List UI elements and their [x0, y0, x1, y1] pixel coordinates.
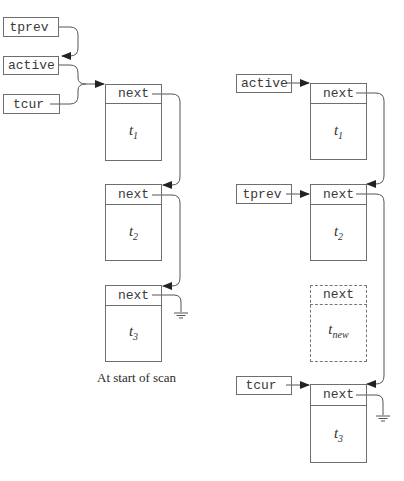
right-node-tnew-label-sub: new — [333, 329, 349, 340]
left-node-t2-label-sub: 2 — [133, 231, 138, 242]
right-node-t3-divider — [310, 405, 367, 406]
left-node-t1-divider — [105, 103, 162, 104]
right-node-t2-label: t2 — [310, 223, 367, 242]
left-node-t1-label-sub: 1 — [133, 130, 138, 141]
left-active-label: active — [8, 58, 55, 73]
left-caption: At start of scan — [97, 370, 176, 386]
right-node-t2-next: next — [310, 185, 367, 204]
right-node-t3-label: t3 — [310, 425, 367, 444]
left-node-t1-next: next — [105, 85, 162, 103]
right-node-t1-divider — [310, 103, 367, 104]
left-tcur-label: tcur — [13, 97, 44, 112]
right-tprev-label: tprev — [242, 187, 281, 202]
right-tcur-pointer: tcur — [236, 376, 292, 395]
right-node-t2-label-sub: 2 — [338, 231, 343, 242]
right-tprev-pointer: tprev — [236, 184, 292, 204]
right-active-pointer: active — [236, 74, 292, 93]
linked-list-diagram: tprev active tcur next t1 next t2 next t… — [0, 0, 404, 481]
right-node-t1-label-sub: 1 — [338, 130, 343, 141]
left-tprev-label: tprev — [9, 20, 48, 35]
left-node-t2-divider — [105, 204, 162, 205]
left-node-t3-label-sub: 3 — [133, 331, 138, 342]
left-node-t3-label: t3 — [105, 323, 162, 342]
right-node-t3-label-sub: 3 — [338, 433, 343, 444]
right-node-tnew-label: tnew — [310, 321, 367, 340]
right-node-t1-label: t1 — [310, 122, 367, 141]
left-active-pointer: active — [3, 56, 59, 75]
right-node-t3-next: next — [310, 385, 367, 405]
left-tcur-pointer: tcur — [3, 94, 60, 114]
right-node-t1-next: next — [310, 84, 367, 103]
right-node-tnew-next: next — [310, 285, 367, 304]
left-node-t1-label: t1 — [105, 122, 162, 141]
left-node-t3-next: next — [105, 286, 162, 305]
right-active-label: active — [241, 76, 288, 91]
left-node-t2-next: next — [105, 185, 162, 204]
left-node-t2-label: t2 — [105, 223, 162, 242]
right-node-tnew-divider — [310, 304, 367, 305]
left-tprev-pointer: tprev — [3, 17, 59, 37]
right-tcur-label: tcur — [245, 378, 276, 393]
right-node-t2-divider — [310, 204, 367, 205]
left-node-t3-divider — [105, 305, 162, 306]
